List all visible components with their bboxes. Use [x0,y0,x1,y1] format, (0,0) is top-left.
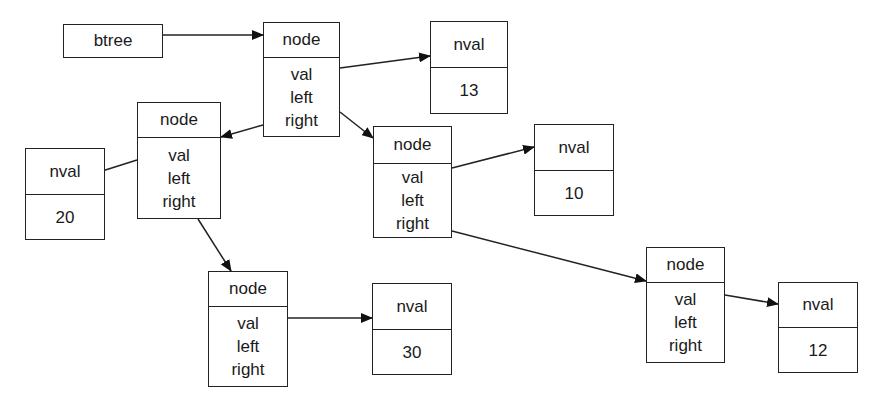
node-box-root: node val left right [263,22,340,137]
field-right: right [231,358,264,381]
nval-value: 30 [403,341,422,364]
node-box-right-right: node val left right [646,247,725,363]
field-left: left [237,335,260,358]
nval-box-13: nval 13 [430,21,508,114]
btree-label: btree [94,31,133,51]
edge-n1-right-to-n3 [340,112,373,138]
nval-header: nval [535,125,613,171]
edge-n5-val-to-12 [725,295,778,304]
node-header: node [264,23,339,58]
field-val: val [168,144,190,167]
node-header: node [138,103,220,138]
field-left: left [290,86,313,109]
nval-box-20: nval 20 [25,148,105,240]
nval-header: nval [373,284,451,330]
node-header: node [209,272,287,307]
nval-box-12: nval 12 [778,282,858,373]
field-right: right [162,190,195,213]
nval-header: nval [779,283,857,328]
field-val: val [675,288,697,311]
nval-value: 10 [565,182,584,205]
nval-value: 13 [460,79,479,102]
nval-header: nval [26,149,104,195]
field-val: val [402,166,424,189]
field-right: right [396,212,429,235]
nval-box-10: nval 10 [534,124,614,216]
node-header: node [374,127,451,164]
edge-n3-right-to-n5 [452,231,646,281]
nval-value: 20 [56,206,75,229]
nval-header: nval [431,22,507,68]
nval-value: 12 [809,339,828,362]
field-left: left [674,311,697,334]
edge-n3-val-to-10 [452,147,534,168]
field-left: left [401,189,424,212]
edge-n2-right-to-n4 [198,219,231,271]
field-val: val [291,63,313,86]
field-val: val [237,312,259,335]
node-box-left: node val left right [137,102,221,219]
nval-box-30: nval 30 [372,283,452,375]
edge-n1-val-to-13 [340,56,430,68]
node-box-left-right: node val left right [208,271,288,387]
field-right: right [285,109,318,132]
node-header: node [647,248,724,283]
field-left: left [168,167,191,190]
edge-n1-left-to-n2 [221,125,263,137]
btree-pointer-box: btree [63,24,163,58]
field-right: right [669,334,702,357]
node-box-right: node val left right [373,126,452,238]
